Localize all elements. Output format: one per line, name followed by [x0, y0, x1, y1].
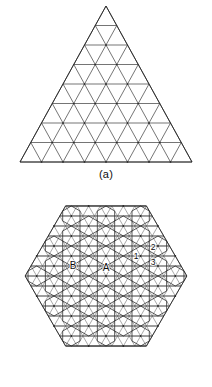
- lattice-node: [88, 345, 90, 347]
- lattice-node: [84, 161, 86, 163]
- lattice-node: [127, 83, 129, 85]
- lattice-node: [70, 275, 72, 277]
- panel-b-hexagon-tiling: BA123 (b): [0, 190, 212, 387]
- lattice-edge: [118, 206, 124, 216]
- lattice-node: [70, 295, 72, 297]
- lattice-node: [88, 305, 90, 307]
- lattice-node: [105, 215, 107, 217]
- lattice-node: [51, 142, 53, 144]
- lattice-node: [157, 225, 159, 227]
- lattice-node: [122, 225, 124, 227]
- lattice-edge: [37, 286, 43, 296]
- lattice-node: [157, 265, 159, 267]
- lattice-diag-right: [52, 104, 84, 163]
- lattice-node: [140, 275, 142, 277]
- lattice-edge: [170, 256, 176, 266]
- lattice-node: [105, 235, 107, 237]
- tile-label-a: A: [103, 262, 110, 273]
- lattice-node: [140, 335, 142, 337]
- lattice-node: [174, 255, 176, 257]
- lattice-node: [122, 345, 124, 347]
- lattice-node: [140, 215, 142, 217]
- lattice-node: [36, 255, 38, 257]
- lattice-node: [116, 142, 118, 144]
- lattice-node: [88, 245, 90, 247]
- lattice-node: [53, 225, 55, 227]
- lattice-edge: [54, 316, 60, 326]
- lattice-node: [41, 161, 43, 163]
- lattice-node: [140, 315, 142, 317]
- caption-a: (a): [0, 168, 212, 180]
- lattice-node: [105, 275, 107, 277]
- lattice-node: [159, 142, 161, 144]
- lattice-node: [73, 142, 75, 144]
- lattice-node: [140, 295, 142, 297]
- lattice-node: [122, 285, 124, 287]
- lattice-node: [174, 295, 176, 297]
- lattice-node: [70, 255, 72, 257]
- lattice-edge: [54, 226, 60, 236]
- lattice-edge: [123, 206, 129, 216]
- lattice-edge: [37, 256, 43, 266]
- lattice-node: [122, 325, 124, 327]
- lattice-node: [36, 275, 38, 277]
- lattice-node: [140, 235, 142, 237]
- lattice-node: [53, 325, 55, 327]
- lattice-node: [70, 215, 72, 217]
- lattice-node: [137, 103, 139, 105]
- lattice-node: [105, 295, 107, 297]
- lattice-node: [36, 295, 38, 297]
- tile-label-3: 3: [151, 257, 156, 267]
- lattice-node: [122, 305, 124, 307]
- lattice-node: [84, 83, 86, 85]
- lattice-node: [148, 122, 150, 124]
- panel-a-triangular-lattice: (a): [0, 0, 212, 190]
- lattice-diag-left: [42, 26, 117, 163]
- lattice-node: [174, 275, 176, 277]
- lattice-node: [70, 235, 72, 237]
- lattice-node: [140, 255, 142, 257]
- lattice-edge: [83, 206, 89, 216]
- lattice-node: [122, 245, 124, 247]
- lattice-node: [84, 122, 86, 124]
- lattice-edge: [89, 206, 95, 216]
- lattice-node: [70, 315, 72, 317]
- lattice-node: [157, 305, 159, 307]
- lattice-diag-left: [85, 65, 139, 163]
- tile-labels: BA123: [70, 242, 156, 273]
- lattice-edge: [89, 336, 95, 346]
- lattice-node: [157, 245, 159, 247]
- lattice-node: [94, 103, 96, 105]
- lattice-diag-right: [74, 65, 128, 163]
- tile-label-2: 2: [151, 242, 156, 252]
- lattice-node: [157, 325, 159, 327]
- tile-label-1: 1: [134, 251, 139, 261]
- lattice-node: [62, 122, 64, 124]
- lattice-node: [88, 205, 90, 207]
- lattice-edge: [152, 226, 158, 236]
- lattice-node: [53, 265, 55, 267]
- hexagon-tiling-drawing: BA123: [0, 190, 212, 362]
- lattice-node: [73, 103, 75, 105]
- lattice-node: [88, 225, 90, 227]
- lattice-node: [122, 265, 124, 267]
- lattice-node: [88, 325, 90, 327]
- lattice-node: [88, 285, 90, 287]
- lattice-node: [105, 44, 107, 46]
- lattice-node: [127, 122, 129, 124]
- tile-label-b: B: [70, 260, 77, 271]
- lattice-node: [105, 83, 107, 85]
- lattice-node: [122, 205, 124, 207]
- lattice-diag-left: [171, 143, 182, 163]
- lattice-node: [116, 103, 118, 105]
- lattice-diag-right: [31, 143, 42, 163]
- lattice-node: [116, 64, 118, 66]
- lattice-node: [94, 142, 96, 144]
- lattice-node: [127, 161, 129, 163]
- lattice-node: [137, 142, 139, 144]
- lattice-node: [70, 335, 72, 337]
- lattice-node: [157, 285, 159, 287]
- lattice-node: [105, 315, 107, 317]
- lattice-node: [105, 335, 107, 337]
- lattice-node: [105, 255, 107, 257]
